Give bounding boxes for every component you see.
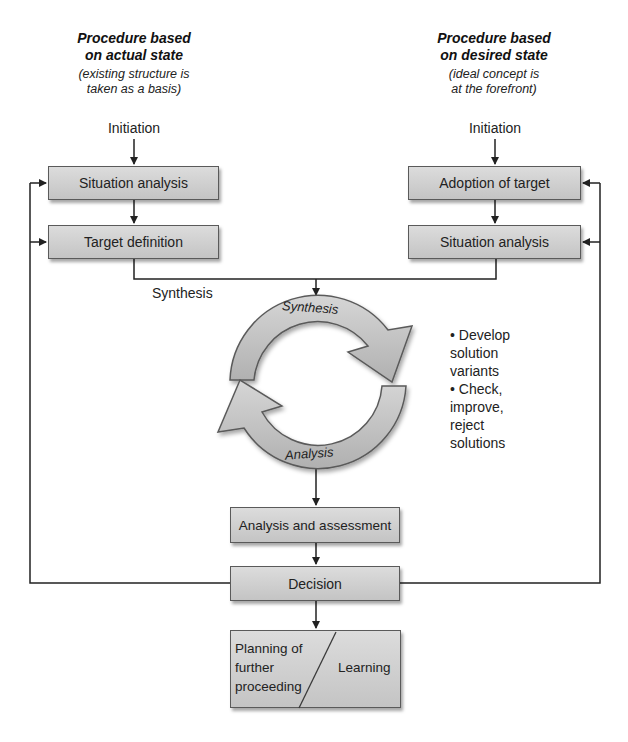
planning-line1: Planning of	[235, 639, 303, 658]
note-line: • Check,	[450, 380, 510, 398]
left-heading-line2: on actual state	[46, 47, 222, 64]
left-initiation-label: Initiation	[84, 120, 184, 136]
synthesis-connector-label: Synthesis	[152, 285, 213, 301]
cycle-notes: • Develop solution variants • Check, imp…	[450, 326, 510, 452]
planning-text: Planning of further proceeding	[235, 639, 303, 696]
left-subheading-line1: (existing structure is	[46, 67, 222, 82]
adoption-of-target-box: Adoption of target	[408, 166, 581, 200]
right-heading-line2: on desired state	[406, 47, 582, 64]
left-heading-line1: Procedure based	[46, 30, 222, 47]
right-subheading: (ideal concept is at the forefront)	[406, 67, 582, 97]
planning-line3: proceeding	[235, 677, 303, 696]
note-line: improve,	[450, 398, 510, 416]
right-situation-analysis-box: Situation analysis	[408, 225, 581, 259]
right-heading: Procedure based on desired state	[406, 30, 582, 64]
note-line: solution	[450, 344, 510, 362]
left-heading: Procedure based on actual state	[46, 30, 222, 64]
target-definition-box: Target definition	[48, 225, 219, 259]
right-subheading-line1: (ideal concept is	[406, 67, 582, 82]
right-subheading-line2: at the forefront)	[406, 82, 582, 97]
left-situation-analysis-box: Situation analysis	[48, 166, 219, 200]
right-initiation-label: Initiation	[445, 120, 545, 136]
note-line: • Develop	[450, 326, 510, 344]
decision-box: Decision	[230, 566, 400, 601]
note-line: solutions	[450, 434, 510, 452]
analysis-and-assessment-box: Analysis and assessment	[230, 507, 400, 543]
note-line: reject	[450, 416, 510, 434]
right-heading-line1: Procedure based	[406, 30, 582, 47]
note-line: variants	[450, 362, 510, 380]
learning-text: Learning	[338, 660, 391, 675]
planning-line2: further	[235, 658, 303, 677]
cycle-arrows	[218, 295, 412, 468]
planning-learning-box: Planning of further proceeding Learning	[230, 630, 401, 708]
left-subheading-line2: taken as a basis)	[46, 82, 222, 97]
left-subheading: (existing structure is taken as a basis)	[46, 67, 222, 97]
